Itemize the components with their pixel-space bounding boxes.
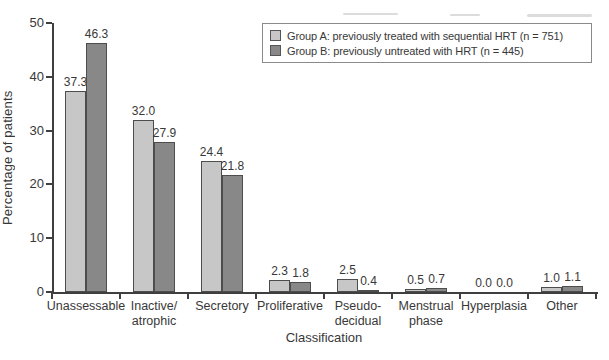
bar-group-a (269, 280, 290, 292)
bar-group-a (201, 161, 222, 292)
x-axis-tick (527, 292, 529, 299)
y-axis-tick (46, 130, 52, 132)
y-axis-tick (46, 237, 52, 239)
bar-group-a (133, 120, 154, 292)
y-axis-title: Percentage of patients (0, 70, 18, 245)
bar-value-label: 46.3 (71, 27, 123, 41)
scan-artifact (343, 13, 398, 15)
legend-swatch-group-b (270, 45, 281, 56)
legend: Group A: previously treated with sequent… (262, 23, 592, 63)
y-axis-tick (46, 183, 52, 185)
x-axis-tick (323, 292, 325, 299)
bar-value-label: 1.8 (275, 266, 327, 280)
y-axis-tick-label: 10 (14, 230, 44, 245)
y-axis-tick-label: 40 (14, 69, 44, 84)
scan-artifact (450, 14, 480, 16)
legend-label-group-b: Group B: previously untreated with HRT (… (287, 45, 524, 57)
bar-group-b (358, 290, 379, 292)
bar-value-label: 27.9 (139, 126, 191, 140)
x-axis-tick (255, 292, 257, 299)
bar-value-label: 21.8 (207, 159, 259, 173)
bar-group-a (541, 287, 562, 292)
legend-label-group-a: Group A: previously treated with sequent… (287, 30, 563, 42)
x-axis-line (52, 292, 598, 294)
bar-group-b (562, 286, 583, 292)
y-axis-tick-label: 30 (14, 123, 44, 138)
legend-item-group-a: Group A: previously treated with sequent… (270, 30, 591, 42)
x-axis-tick (459, 292, 461, 299)
x-axis-tick (595, 292, 597, 299)
x-axis-tick (51, 292, 53, 299)
category-label: Other (517, 299, 607, 314)
legend-swatch-group-a (270, 30, 281, 41)
x-axis-tick (187, 292, 189, 299)
bar-value-label: 32.0 (118, 104, 170, 118)
x-axis-title: Classification (224, 330, 424, 345)
y-axis-tick-label: 50 (14, 15, 44, 30)
y-axis-tick-label: 20 (14, 176, 44, 191)
bar-group-b (290, 282, 311, 292)
bar-group-b (154, 142, 175, 292)
bar-chart: Percentage of patients Classification Gr… (0, 0, 609, 360)
bar-value-label: 24.4 (186, 145, 238, 159)
bar-group-b (222, 175, 243, 292)
y-axis-tick-label: 0 (14, 284, 44, 299)
y-axis-tick (46, 22, 52, 24)
bar-value-label: 1.1 (547, 270, 599, 284)
bar-group-a (65, 91, 86, 292)
bar-value-label: 0.7 (411, 272, 463, 286)
bar-value-label: 0.4 (343, 274, 395, 288)
x-axis-tick (391, 292, 393, 299)
x-axis-tick (119, 292, 121, 299)
bar-value-label: 0.0 (479, 276, 531, 290)
bar-group-a (405, 289, 426, 292)
y-axis-line (52, 23, 54, 294)
scan-artifact (527, 14, 592, 17)
bar-group-b (426, 288, 447, 292)
bar-group-b (86, 43, 107, 292)
legend-item-group-b: Group B: previously untreated with HRT (… (270, 45, 591, 57)
